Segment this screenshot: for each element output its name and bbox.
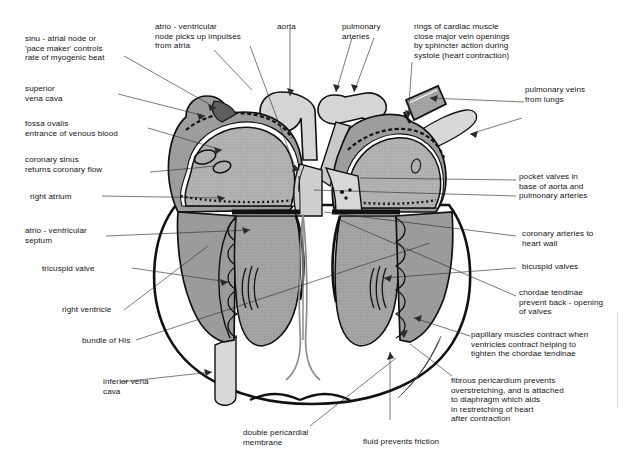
label-fluid-prevents-friction: fluid prevents friction	[363, 437, 439, 447]
label-pulmonary-veins: pulmonary veins from lungs	[525, 85, 585, 104]
label-bundle-of-his: bundle of His	[82, 336, 130, 346]
label-rings-of-cardiac-muscle: rings of cardiac muscle close major vein…	[414, 22, 510, 60]
page-edge-line	[617, 312, 618, 408]
label-tricuspid-valve: tricuspid valve	[42, 264, 95, 274]
label-papillary-muscles: papillary muscles contract when ventricl…	[471, 330, 588, 359]
heart-diagram-figure: sinu - atrial node or 'pace maker' contr…	[0, 0, 627, 467]
label-inferior-vena-cava: inferior vena cava	[103, 377, 149, 396]
label-atrio-ventricular-septum: atrio - ventricular septum	[25, 226, 87, 245]
label-right-ventricle: right ventricle	[62, 305, 111, 315]
label-sinu-atrial-node: sinu - atrial node or 'pace maker' contr…	[25, 34, 105, 63]
label-chordae-tendinae: chordae tendinae prevent back - opening …	[519, 288, 603, 317]
label-aorta: aorta	[277, 22, 296, 32]
label-pocket-valves: pocket valves in base of aorta and pulmo…	[519, 172, 587, 201]
label-atrio-ventricular-node: atrio - ventricular node picks up impuls…	[155, 22, 241, 51]
label-coronary-arteries: coronary arteries to heart wall	[522, 229, 593, 248]
label-double-pericardial-membrane: double pericardial membrane	[243, 428, 308, 447]
label-coronary-sinus: coronary sinus returns coronary flow	[25, 155, 102, 174]
label-bicuspid-valves: bicuspid valves	[522, 262, 578, 272]
label-right-atrium: right atrium	[30, 192, 71, 202]
label-fibrous-pericardium: fibrous pericardium prevents overstretch…	[451, 376, 564, 424]
label-fossa-ovalis: fossa ovalis entrance of venous blood	[25, 119, 118, 138]
label-superior-vena-cava: superior vena cava	[25, 84, 63, 103]
label-pulmonary-arteries: pulmonary arteries	[342, 22, 381, 41]
